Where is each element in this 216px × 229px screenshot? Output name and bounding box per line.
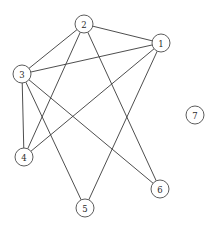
node-label-6: 6 [157,185,162,195]
graph-node-6[interactable]: 6 [151,180,169,198]
graph-node-4[interactable]: 4 [15,148,33,166]
node-label-7: 7 [192,111,197,121]
graph-edge-2-4 [28,32,81,149]
graph-node-2[interactable]: 2 [75,15,93,33]
node-label-3: 3 [19,70,24,80]
graph-node-1[interactable]: 1 [152,34,170,52]
graph-edge-3-4 [22,83,24,148]
graph-canvas: 1234567 [0,0,216,229]
node-label-2: 2 [81,20,86,30]
edge-layer [22,26,157,200]
graph-node-3[interactable]: 3 [13,65,31,83]
graph-node-5[interactable]: 5 [76,199,94,217]
node-label-4: 4 [21,153,26,163]
node-label-1: 1 [158,39,163,49]
graph-node-7[interactable]: 7 [186,106,204,124]
node-label-5: 5 [82,204,87,214]
graph-edge-2-6 [88,32,156,181]
graph-edge-2-3 [29,30,77,69]
graph-edge-1-3 [31,45,152,72]
graph-figure: 1234567 [0,0,216,229]
graph-edge-1-2 [93,26,153,41]
graph-edge-3-6 [29,80,153,183]
graph-edge-1-5 [89,51,157,200]
